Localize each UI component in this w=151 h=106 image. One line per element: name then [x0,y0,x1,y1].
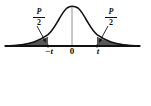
right-tail-probability-label: P 2 [103,8,119,27]
axis-label-zero: 0 [64,47,80,56]
axis-label-negative-t: −t [40,47,58,56]
left-tail-numerator: P [31,8,47,17]
axis-label-positive-t: t [90,47,106,56]
right-tail-denominator: 2 [103,18,119,27]
distribution-figure: P 2 P 2 −t 0 t [0,0,151,106]
left-tail-denominator: 2 [31,18,47,27]
left-tail-probability-label: P 2 [31,8,47,27]
right-tail-numerator: P [103,8,119,17]
density-curve [5,6,140,46]
